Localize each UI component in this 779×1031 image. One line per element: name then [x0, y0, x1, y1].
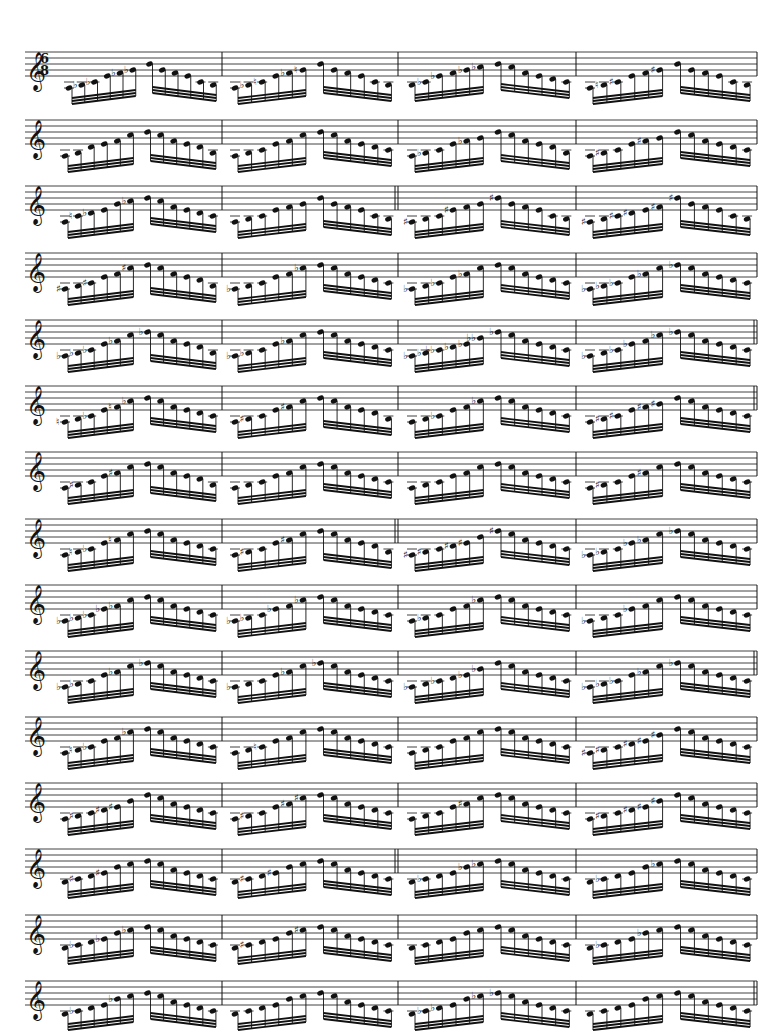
flat-icon: ♭ [240, 347, 245, 358]
flat-icon: ♭ [595, 546, 600, 557]
flat-icon: ♭ [82, 741, 87, 752]
sharp-icon: ♯ [489, 525, 494, 536]
flat-icon: ♭ [417, 147, 422, 158]
measure: ♯♯♯♯♯ [581, 186, 757, 238]
treble-clef-icon: 𝄞 [26, 847, 46, 889]
flat-icon: ♭ [121, 726, 126, 737]
sharp-icon: ♯ [403, 549, 408, 560]
flat-icon: ♭ [669, 525, 674, 536]
measure: ♭♭ [407, 386, 576, 438]
flat-icon: ♭ [637, 268, 642, 279]
flat-icon: ♭ [69, 939, 74, 950]
flat-icon: ♭ [471, 663, 476, 674]
natural-icon: ♮ [595, 79, 599, 90]
flat-icon: ♭ [294, 262, 299, 273]
flat-icon: ♭ [240, 79, 245, 90]
flat-icon: ♭ [312, 657, 317, 668]
flat-icon: ♭ [121, 195, 126, 206]
flat-icon: ♭ [471, 594, 476, 605]
measure: ♭♭ [407, 585, 576, 637]
flat-icon: ♭ [139, 326, 144, 337]
natural-icon: ♮ [56, 416, 60, 427]
flat-icon: ♭ [669, 326, 674, 337]
sharp-icon: ♯ [651, 64, 656, 75]
flat-icon: ♭ [226, 681, 231, 692]
flat-icon: ♭ [82, 609, 87, 620]
measure: ♭♭♭♭♭ [56, 320, 222, 372]
sharp-icon: ♯ [444, 540, 449, 551]
staff-system: 𝄞♮♭♮♭♯♯♭♭♯♯♯♯ [25, 384, 757, 438]
treble-clef-icon: 𝄞 [26, 715, 46, 757]
sharp-icon: ♯ [95, 804, 100, 815]
measure: ♭♭ [581, 585, 757, 637]
flat-icon: ♭ [623, 537, 628, 548]
flat-icon: ♭ [403, 283, 408, 294]
measure: ♭♭♭♭♭ [581, 651, 757, 703]
flat-icon: ♭ [609, 675, 614, 686]
sharp-icon: ♯ [581, 747, 586, 758]
flat-icon: ♭ [69, 612, 74, 623]
flat-icon: ♭♭ [466, 332, 476, 343]
flat-icon: ♭ [581, 350, 586, 361]
measure: ♯♯ [60, 452, 222, 504]
flat-icon: ♭ [69, 347, 74, 358]
flat-icon: ♭ [471, 990, 476, 1001]
flat-icon: ♭ [430, 1002, 435, 1013]
measure [407, 452, 576, 504]
natural-icon: ♮ [108, 401, 112, 412]
flat-icon: ♭ [623, 338, 628, 349]
measure: ♯♯ [585, 120, 757, 172]
measure: ♭♭♭ [403, 253, 576, 305]
flat-icon: ♭ [240, 612, 245, 623]
treble-clef-icon: 𝄞 [26, 913, 46, 955]
sharp-icon: ♯ [403, 216, 408, 227]
flat-icon: ♭ [294, 594, 299, 605]
flat-icon: ♭ [430, 70, 435, 81]
staff-system: 𝄞♯♯♯♯ [25, 450, 757, 504]
sharp-icon: ♯ [458, 537, 463, 548]
measure [585, 981, 757, 1030]
measure: ♯♯♯♯ [585, 783, 757, 835]
measure [407, 915, 576, 964]
flat-icon: ♭ [417, 347, 422, 358]
sharp-icon: ♯ [595, 147, 600, 158]
measure: ♮♭♮ [60, 519, 222, 571]
sharp-icon: ♯ [651, 201, 656, 212]
flat-icon: ♭ [669, 657, 674, 668]
staff-system: 𝄞♭♭♯♯ [25, 118, 757, 172]
flat-icon: ♭ [82, 543, 87, 554]
flat-icon: ♭ [124, 64, 129, 75]
measure: ♯♯♯ [56, 253, 222, 305]
flat-icon: ♭ [595, 873, 600, 884]
flat-icon: ♭ [95, 603, 100, 614]
measure: ♯♯ [585, 452, 757, 504]
flat-icon: ♭ [56, 350, 61, 361]
measure [230, 120, 398, 172]
staff-system: 𝄞♭♭♭♭♭♭♭♭♭♭♭♭♭ [25, 583, 757, 637]
sharp-icon: ♯ [651, 795, 656, 806]
flat-icon: ♭ [581, 681, 586, 692]
measure: ♭♮♭♮ [230, 52, 398, 104]
sharp-icon: ♯ [458, 798, 463, 809]
flat-icon: ♭ [280, 335, 285, 346]
flat-icon: ♭ [417, 873, 422, 884]
treble-clef-icon: 𝄞 [26, 979, 46, 1021]
flat-icon: ♭ [108, 600, 113, 611]
measure: ♭♭ [585, 849, 757, 898]
flat-icon: ♭ [226, 615, 231, 626]
staff-system: 𝄞♯♯♯♯♯♯♯♯♯♯♯ [25, 781, 757, 835]
flat-icon: ♭ [444, 341, 449, 352]
sharp-icon: ♯ [444, 204, 449, 215]
flat-icon: ♭ [280, 67, 285, 78]
flat-icon: ♭ [403, 681, 408, 692]
measure: ♭♭♭♭♭ [581, 320, 757, 372]
staff-system: 𝄞♮♭♮♯♯♯♯♯♯♯♭♭♭♭♭ [25, 517, 757, 571]
flat-icon: ♭ [489, 326, 494, 337]
flat-icon: ♭ [69, 1005, 74, 1016]
sharp-icon: ♯ [651, 398, 656, 409]
measure: ♭♭♭ [60, 915, 222, 964]
treble-clef-icon: 𝄞 [26, 251, 46, 293]
sharp-icon: ♯ [623, 738, 628, 749]
flat-icon: ♭ [637, 927, 642, 938]
measure: ♭♭♭♭ [407, 52, 576, 101]
